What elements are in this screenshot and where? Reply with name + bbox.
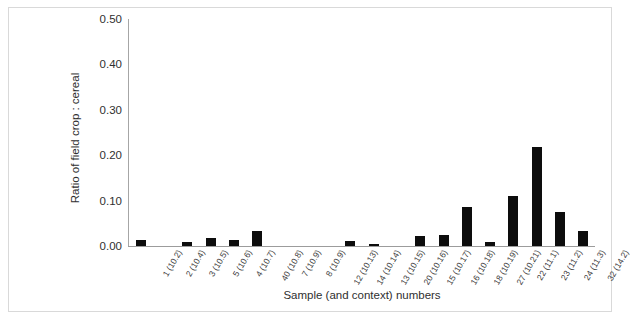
bar: [206, 238, 216, 246]
bar: [252, 231, 262, 246]
x-axis-tick-label: 2 (10.4): [184, 248, 207, 278]
y-axis-title: Ratio of field crop : cereal: [66, 18, 84, 258]
x-axis-tick-label: 3 (10.5): [207, 248, 230, 278]
y-axis-tick-label: 0.20: [86, 149, 122, 161]
plot-area: [129, 19, 595, 246]
bar: [439, 235, 449, 246]
y-axis-tick-label: 0.40: [86, 58, 122, 70]
y-axis-tick-labels: 0.500.400.300.200.100.00: [86, 12, 122, 252]
x-axis-line: [128, 246, 595, 247]
bar: [508, 196, 518, 246]
y-axis-tick-label: 0.10: [86, 195, 122, 207]
x-axis-tick-label: 40 (10.8): [279, 248, 305, 282]
y-axis-tick-label: 0.30: [86, 104, 122, 116]
bar: [415, 236, 425, 246]
x-axis-tick-label: 4 (10.7): [253, 248, 276, 278]
bar: [532, 147, 542, 246]
x-axis-tick-label: 8 (10.9): [323, 248, 346, 278]
x-axis-tick-labels: 1 (10.2)2 (10.4)3 (10.5)5 (10.6)4 (10.7)…: [129, 248, 595, 292]
bar: [555, 212, 565, 246]
x-axis-tick-label: 1 (10.2): [160, 248, 183, 278]
bar: [578, 231, 588, 246]
x-axis-title: Sample (and context) numbers: [129, 289, 595, 301]
x-axis-tick-label: 5 (10.6): [230, 248, 253, 278]
y-axis-tick-label: 0.00: [86, 240, 122, 252]
x-axis-tick-label: 23 (11.2): [558, 248, 583, 282]
y-axis-tick-label: 0.50: [86, 13, 122, 25]
bar: [462, 207, 472, 246]
